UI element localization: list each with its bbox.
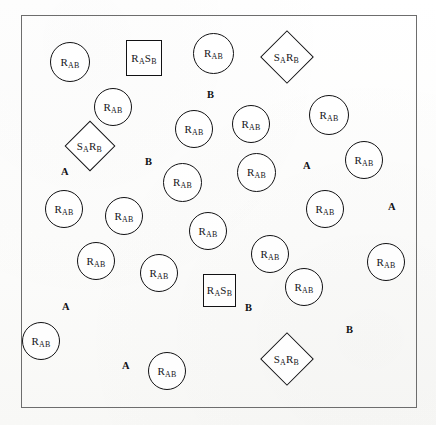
shape-label: RAB bbox=[199, 226, 218, 237]
shape-circle-c14: RAB bbox=[251, 235, 289, 273]
shape-label: RAB bbox=[32, 336, 51, 347]
shape-label: RAB bbox=[158, 366, 177, 377]
shape-label: SARB bbox=[77, 141, 102, 152]
shape-label: RAB bbox=[61, 57, 80, 68]
shape-label: RAB bbox=[295, 282, 314, 293]
shape-circle-c20: RAB bbox=[148, 352, 186, 390]
shape-circle-c8: RAB bbox=[237, 153, 276, 192]
shape-circle-c17: RAB bbox=[367, 243, 405, 281]
shape-circle-c10: RAB bbox=[45, 190, 83, 228]
shape-label: SARB bbox=[274, 354, 299, 365]
shape-circle-c7: RAB bbox=[345, 141, 383, 179]
shape-label: RASB bbox=[131, 53, 156, 64]
marker-a-m5: A bbox=[388, 202, 396, 213]
shape-circle-c3: RAB bbox=[193, 33, 234, 74]
shape-label: RAB bbox=[55, 204, 74, 215]
shape-label: RAB bbox=[104, 102, 123, 113]
shape-label: RAB bbox=[320, 110, 339, 121]
shape-circle-c16: RAB bbox=[140, 254, 178, 292]
marker-a-m4: A bbox=[303, 161, 311, 172]
shape-circle-c15: RAB bbox=[77, 242, 115, 280]
shape-label: RAB bbox=[150, 268, 169, 279]
shape-label: RAB bbox=[261, 249, 280, 260]
marker-a-m6: A bbox=[62, 302, 70, 313]
marker-b-m2: B bbox=[145, 157, 152, 168]
marker-a-m3: A bbox=[61, 167, 69, 178]
shape-circle-c11: RAB bbox=[105, 197, 143, 235]
caption-remnant bbox=[70, 414, 370, 423]
shape-circle-c9: RAB bbox=[163, 163, 202, 202]
shape-label: SARB bbox=[274, 52, 299, 63]
shape-circle-c19: RAB bbox=[22, 322, 60, 360]
shape-circle-c4: RAB bbox=[309, 95, 349, 135]
shape-circle-c5: RAB bbox=[175, 110, 213, 148]
shape-label: RAB bbox=[247, 167, 266, 178]
shape-label: RAB bbox=[185, 124, 204, 135]
shape-circle-c13: RAB bbox=[189, 212, 227, 250]
shape-circle-c6: RAB bbox=[232, 105, 270, 143]
figure-page: RABRABRABRABRABRABRABRABRABRABRABRABRABR… bbox=[0, 0, 436, 425]
shape-label: RAB bbox=[115, 211, 134, 222]
shape-square-s1: RASB bbox=[126, 40, 162, 76]
shape-label: RAB bbox=[377, 257, 396, 268]
shape-label: RAB bbox=[316, 204, 335, 215]
shape-circle-c1: RAB bbox=[50, 42, 90, 82]
shape-label: RAB bbox=[173, 177, 192, 188]
marker-b-m1: B bbox=[207, 90, 214, 101]
marker-a-m9: A bbox=[122, 361, 130, 372]
shape-label: RAB bbox=[242, 119, 261, 130]
shape-label: RAB bbox=[355, 155, 374, 166]
shape-square-s2: RASB bbox=[203, 274, 236, 307]
shape-circle-c2: RAB bbox=[94, 88, 132, 126]
shape-label: RAB bbox=[204, 48, 223, 59]
marker-b-m7: B bbox=[245, 303, 252, 314]
shape-circle-c18: RAB bbox=[285, 268, 323, 306]
shape-label: RAB bbox=[87, 256, 106, 267]
shape-label: RASB bbox=[207, 285, 232, 296]
marker-b-m8: B bbox=[346, 325, 353, 336]
shape-circle-c12: RAB bbox=[306, 190, 344, 228]
